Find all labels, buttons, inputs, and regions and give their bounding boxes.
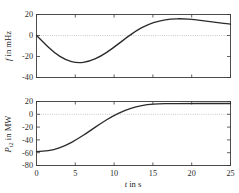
top-ytick-label-0: 20 (25, 10, 33, 19)
top-x-tickmarks (37, 15, 231, 78)
bottom-data-curve (37, 104, 231, 152)
svg-text:f in mHz: f in mHz (3, 31, 13, 61)
top-y-axis-label-unit: in mHz (3, 31, 13, 57)
bottom-ytick-label-1: 0 (29, 110, 33, 119)
xtick-label-1: 5 (73, 169, 77, 178)
x-axis: 0 5 10 15 20 25 t in s (34, 169, 234, 189)
top-y-tickmarks (37, 15, 231, 78)
bottom-y-tickmarks (37, 102, 231, 166)
xtick-label-3: 15 (149, 169, 157, 178)
top-y-axis-label: f in mHz (3, 31, 13, 61)
bottom-ytick-label-3: -40 (22, 136, 33, 145)
bottom-ytick-label-2: -20 (22, 123, 33, 132)
bottom-y-axis-label-unit: in MW (3, 115, 13, 140)
top-ytick-label-1: 0 (29, 31, 33, 40)
xtick-label-2: 10 (110, 169, 118, 178)
x-axis-label-unit: in s (129, 179, 142, 189)
bottom-ytick-label-0: 20 (25, 97, 33, 106)
xtick-label-5: 25 (226, 169, 234, 178)
top-plot-frame (37, 15, 231, 78)
panel-turbine-power: 20 0 -20 -40 -60 -80 Pt2 in MW (3, 97, 231, 170)
x-axis-label: t in s (125, 179, 142, 189)
bottom-x-tickmarks (37, 102, 231, 166)
xtick-label-0: 0 (34, 169, 38, 178)
chart-svg: 20 0 -20 -40 f in mHz (0, 0, 239, 193)
bottom-plot-frame (37, 102, 231, 166)
bottom-y-axis-label: Pt2 in MW (3, 115, 14, 154)
panel-frequency-deviation: 20 0 -20 -40 f in mHz (3, 10, 231, 82)
xtick-label-4: 20 (188, 169, 196, 178)
top-data-curve (37, 19, 231, 63)
top-ytick-label-2: -20 (22, 52, 33, 61)
bottom-ytick-label-4: -60 (22, 149, 33, 158)
svg-text:Pt2 in MW: Pt2 in MW (3, 115, 14, 154)
figure-container: 20 0 -20 -40 f in mHz (0, 0, 239, 193)
top-ytick-label-3: -40 (22, 73, 33, 82)
bottom-ytick-label-5: -80 (22, 161, 33, 170)
